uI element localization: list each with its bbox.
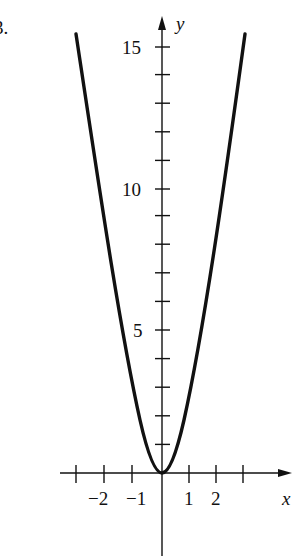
x-tick-label-neg2: −2 — [88, 488, 108, 509]
x-tick-label-1: 1 — [184, 488, 194, 509]
x-axis-arrow-icon — [278, 469, 292, 477]
y-tick-label-5: 5 — [133, 320, 143, 341]
y-axis-arrow-icon — [158, 16, 166, 30]
y-axis-label: y — [174, 13, 185, 34]
x-axis-label: x — [281, 488, 291, 509]
figure-label: 3. — [0, 17, 8, 38]
x-tick-label-2: 2 — [211, 488, 221, 509]
parabola-curve — [76, 34, 245, 473]
y-tick-label-15: 15 — [122, 37, 141, 58]
x-tick-label-neg1: −1 — [126, 488, 146, 509]
y-tick-label-10: 10 — [122, 179, 141, 200]
parabola-chart: 3. y x 5 10 15 −2 −1 1 2 — [0, 0, 302, 556]
